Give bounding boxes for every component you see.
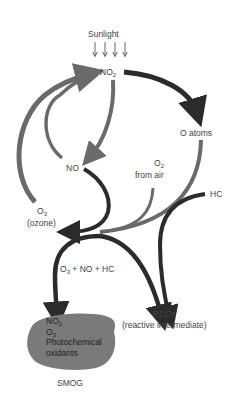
reaction-label: O3 + NO + HC (60, 264, 114, 274)
rco-label: RCO• (153, 309, 175, 319)
smog-no2: NO2 (46, 316, 102, 327)
smog-cycle-diagram (0, 0, 235, 405)
arrow-reaction-to-rco (100, 236, 162, 318)
sunlight-rays-icon (95, 42, 125, 55)
smog-contents: NO2 O3 Photochemical oxidants (46, 316, 102, 358)
no2-sub: 2 (113, 72, 116, 78)
smog-line3: Photochemical (46, 337, 102, 348)
reactive-intermediate-label: (reactive intermediate) (122, 320, 207, 330)
smog-o3: O3 (46, 327, 102, 338)
arrow-hc-to-rco (160, 194, 205, 318)
from-air-label: from air (135, 170, 164, 180)
reaction-rest: + NO + HC (70, 264, 114, 274)
o-atoms-label: O atoms (180, 128, 212, 138)
o2-sub: 2 (161, 163, 164, 169)
o2-base: O (154, 158, 161, 168)
smog-line4: oxidants (46, 348, 102, 359)
reaction-o3-base: O (60, 264, 67, 274)
o2-label: O2 (144, 158, 174, 168)
o3-sub: 3 (44, 211, 47, 217)
arrow-reaction-to-smog (55, 236, 100, 315)
arrow-o3-to-no2 (19, 74, 90, 202)
smog-o3-base: O (46, 327, 53, 337)
no2-label: NO2 (100, 67, 116, 77)
sunlight-label: Sunlight (88, 29, 119, 39)
arrow-o-atoms-to-o3 (100, 140, 201, 232)
smog-no2-sub: 2 (59, 321, 62, 327)
smog-no2-base: NO (46, 316, 59, 326)
arrow-no2-to-o-atoms (124, 72, 197, 113)
smog-label: SMOG (57, 378, 83, 388)
no2-base: NO (100, 67, 113, 77)
arrow-no-to-o3 (68, 169, 109, 232)
o3-label: O3 (37, 206, 47, 216)
hc-label: HC (210, 189, 222, 199)
arrow-no2-to-no (90, 80, 113, 157)
ozone-label: (ozone) (27, 218, 56, 228)
o3-base: O (37, 206, 44, 216)
no-label: NO (66, 163, 79, 173)
